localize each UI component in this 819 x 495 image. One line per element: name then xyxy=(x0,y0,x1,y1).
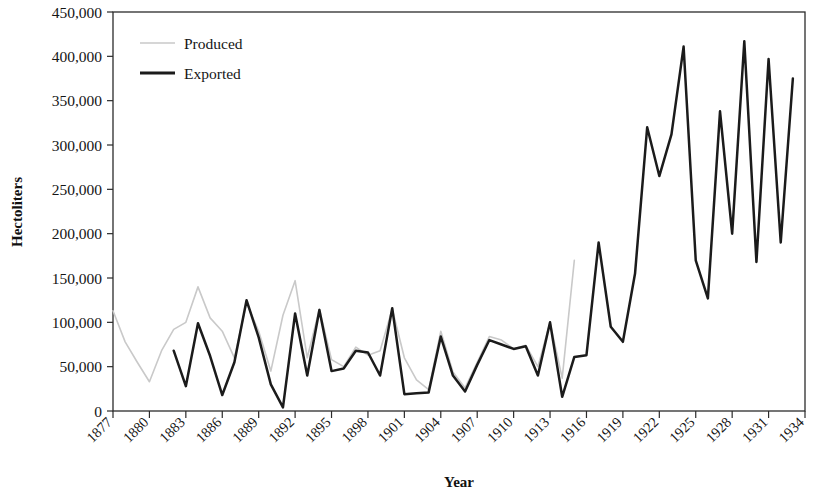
x-tick-label: 1931 xyxy=(739,414,771,446)
x-tick-label: 1925 xyxy=(666,414,698,446)
x-tick-label: 1904 xyxy=(411,413,443,445)
x-tick-label: 1877 xyxy=(83,414,115,446)
x-tick-label: 1892 xyxy=(265,414,297,446)
y-tick-label: 400,000 xyxy=(52,48,103,65)
y-axis-title: Hectoliters xyxy=(9,177,25,247)
y-tick-label: 250,000 xyxy=(52,181,103,198)
series-line-exported xyxy=(174,41,793,407)
legend-label-produced: Produced xyxy=(184,35,243,52)
x-tick-label: 1919 xyxy=(593,414,625,446)
y-tick-label: 50,000 xyxy=(59,358,102,375)
x-tick-label: 1913 xyxy=(520,414,552,446)
y-tick-label: 300,000 xyxy=(52,137,103,154)
chart-figure: 050,000100,000150,000200,000250,000300,0… xyxy=(0,0,819,495)
x-axis-title: Year xyxy=(444,474,474,490)
chart-legend: Produced Exported xyxy=(140,35,243,82)
x-tick-label: 1934 xyxy=(775,413,807,445)
x-tick-label: 1898 xyxy=(338,414,370,446)
y-tick-label: 200,000 xyxy=(52,225,103,242)
y-tick-label: 150,000 xyxy=(52,270,103,287)
x-tick-label: 1922 xyxy=(630,414,662,446)
y-tick-label: 350,000 xyxy=(52,92,103,109)
y-axis-ticks: 050,000100,000150,000200,000250,000300,0… xyxy=(52,4,113,420)
x-tick-label: 1889 xyxy=(229,414,261,446)
x-tick-label: 1916 xyxy=(557,414,589,446)
y-tick-label: 100,000 xyxy=(52,314,103,331)
x-tick-label: 1910 xyxy=(484,414,516,446)
x-tick-label: 1883 xyxy=(156,414,188,446)
series-line-produced xyxy=(113,260,574,389)
y-tick-label: 450,000 xyxy=(52,4,103,21)
x-axis-ticks: 1877188018831886188918921895189819011904… xyxy=(83,411,807,446)
legend-label-exported: Exported xyxy=(184,65,241,82)
x-tick-label: 1907 xyxy=(448,414,480,446)
x-tick-label: 1901 xyxy=(375,414,407,446)
x-tick-label: 1895 xyxy=(302,414,334,446)
line-chart: 050,000100,000150,000200,000250,000300,0… xyxy=(0,0,819,495)
x-tick-label: 1880 xyxy=(120,414,152,446)
x-tick-label: 1886 xyxy=(193,414,225,446)
x-tick-label: 1928 xyxy=(702,414,734,446)
